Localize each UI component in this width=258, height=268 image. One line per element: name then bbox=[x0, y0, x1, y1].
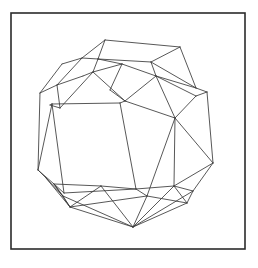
polyhedron-drawing bbox=[0, 0, 258, 268]
figure-canvas bbox=[0, 0, 258, 268]
